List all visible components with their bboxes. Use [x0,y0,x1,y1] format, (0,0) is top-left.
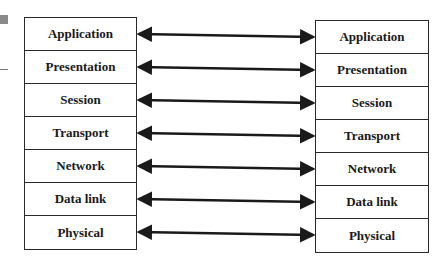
arrow-session [139,100,313,103]
arrow-transport [139,133,313,136]
arrow-presentation [139,67,313,70]
arrow-network [139,166,313,169]
arrow-application [139,34,313,37]
arrow-physical [139,232,313,235]
peer-arrows [0,0,448,266]
arrow-data-link [139,199,313,202]
